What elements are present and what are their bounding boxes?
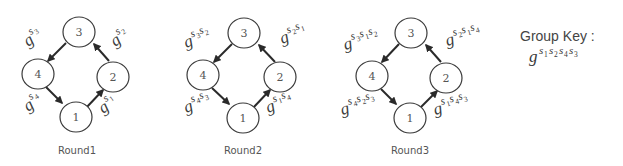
- svg-text:1: 1: [300, 23, 307, 33]
- svg-text:2: 2: [110, 71, 117, 84]
- edge-3-to-4: [48, 43, 66, 61]
- edge-label-1-to-2: g s1: [93, 89, 120, 117]
- node-4: 4: [22, 59, 54, 89]
- svg-text:s: s: [539, 44, 543, 56]
- svg-text:2: 2: [443, 72, 450, 85]
- edge-label-3-to-4: g s3 s1 s2: [340, 23, 380, 54]
- svg-text:2: 2: [277, 71, 284, 84]
- edge-label-1-to-2: g s1 s4: [262, 87, 295, 117]
- edge-2-to-3: [94, 44, 109, 61]
- round-label: Round1: [58, 145, 96, 156]
- svg-text:1: 1: [73, 111, 80, 124]
- edge-4-to-1: [381, 89, 396, 104]
- node-2: 2: [97, 62, 129, 92]
- node-1: 1: [60, 102, 92, 132]
- edge-label-2-to-3: g s2 s1: [276, 18, 309, 48]
- svg-text:1: 1: [407, 112, 414, 125]
- node-2: 2: [264, 62, 296, 92]
- svg-text:s: s: [569, 44, 573, 56]
- edge-label-4-to-1: g s4 s2 s3: [337, 88, 377, 119]
- edge-label-4-to-1: g s4: [18, 87, 45, 115]
- node-3: 3: [395, 18, 427, 48]
- edge-label-2-to-3: g s2 s1 s4: [442, 19, 482, 50]
- svg-text:s: s: [559, 44, 563, 56]
- edge-label-3-to-4: g s3: [18, 22, 45, 50]
- edge-2-to-3: [259, 45, 275, 62]
- svg-text:3: 3: [204, 92, 211, 102]
- svg-text:4: 4: [369, 70, 376, 83]
- svg-text:3: 3: [574, 50, 578, 59]
- round-label: Round2: [224, 145, 262, 156]
- edge-label-2-to-3: g s2: [105, 22, 132, 50]
- svg-text:2: 2: [554, 50, 558, 59]
- round-label: Round3: [391, 145, 429, 156]
- group-key-formula: g s1 s2 s4 s3: [529, 44, 578, 66]
- svg-text:3: 3: [76, 26, 83, 39]
- node-1: 1: [394, 103, 426, 133]
- svg-text:1: 1: [240, 112, 247, 125]
- group-key-title: Group Key :: [520, 28, 595, 44]
- svg-text:4: 4: [286, 92, 293, 102]
- round-2: 3 4 2 1 g s3 s2 g s2 s1 g s4 s3 g s1 s4 …: [180, 18, 309, 156]
- edge-4-to-1: [46, 87, 62, 103]
- group-key-diagram: 3 4 2 1 g s3 g s2 g s4 g s1 Round1 3 4 2…: [0, 0, 623, 166]
- svg-text:3: 3: [408, 27, 415, 40]
- node-3: 3: [63, 17, 95, 47]
- node-2: 2: [430, 63, 462, 93]
- svg-text:3: 3: [241, 27, 248, 40]
- svg-text:4: 4: [475, 25, 481, 35]
- svg-text:4: 4: [35, 68, 42, 81]
- svg-text:4: 4: [200, 69, 207, 82]
- node-3: 3: [228, 18, 260, 48]
- edge-label-3-to-4: g s3 s2: [180, 22, 213, 52]
- svg-text:4: 4: [564, 50, 568, 59]
- svg-text:3: 3: [370, 94, 376, 104]
- node-4: 4: [187, 60, 219, 90]
- node-1: 1: [227, 103, 259, 133]
- round-1: 3 4 2 1 g s3 g s2 g s4 g s1 Round1: [18, 17, 132, 156]
- edge-label-4-to-1: g s4 s3: [180, 87, 213, 117]
- round-3: 3 4 2 1 g s3 s1 s2 g s2 s1 s4 g s4 s2 s3…: [337, 18, 482, 156]
- group-key: Group Key : g s1 s2 s4 s3: [520, 28, 595, 66]
- svg-text:s: s: [549, 44, 553, 56]
- svg-text:1: 1: [544, 50, 548, 59]
- svg-text:2: 2: [204, 27, 211, 37]
- edge-3-to-4: [214, 44, 232, 62]
- svg-text:g: g: [529, 47, 538, 66]
- svg-text:2: 2: [373, 29, 379, 39]
- svg-text:3: 3: [463, 94, 469, 104]
- edge-2-to-3: [426, 45, 441, 62]
- edge-4-to-1: [212, 88, 229, 104]
- node-4: 4: [356, 61, 388, 91]
- edge-3-to-4: [382, 44, 399, 62]
